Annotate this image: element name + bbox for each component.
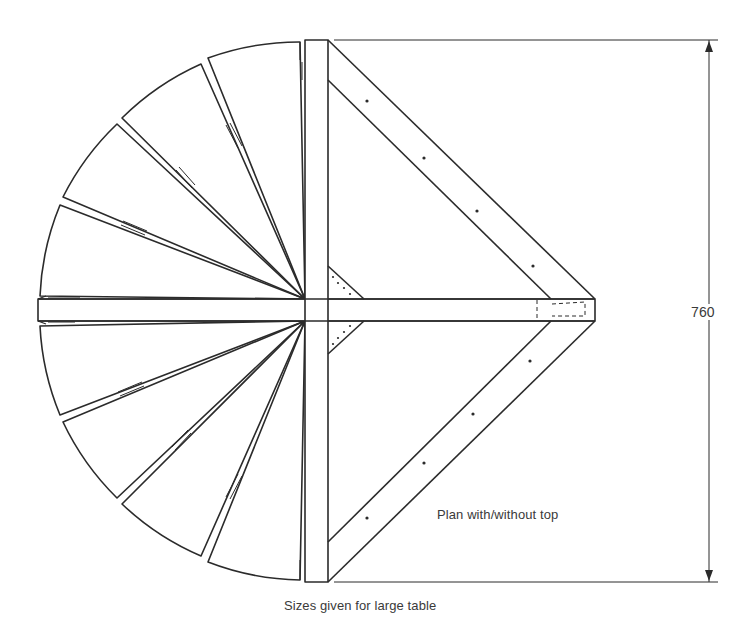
fan-leaf [208, 42, 305, 299]
lower-fan-leaves [40, 321, 305, 580]
fan-leaf [208, 321, 305, 580]
lower-hinge-slots [118, 382, 242, 499]
sizes-note-caption: Sizes given for large table [284, 598, 436, 613]
plan-caption: Plan with/without top [437, 507, 558, 522]
fan-leaf [40, 321, 305, 415]
fan-leaf [63, 124, 305, 299]
arrow-down-icon [705, 570, 713, 581]
upper-brace-inner [328, 80, 551, 299]
dimension-label: 760 [690, 304, 716, 320]
arrow-up-icon [705, 41, 713, 52]
fan-leaf [40, 205, 305, 299]
upper-brace-outer [328, 40, 595, 299]
lower-brace-outer [328, 321, 595, 582]
table-plan-drawing [0, 0, 745, 644]
lower-gusset [328, 321, 364, 354]
vertical-post [305, 40, 328, 582]
upper-gusset [328, 266, 364, 299]
upper-fan-leaves [40, 42, 305, 299]
